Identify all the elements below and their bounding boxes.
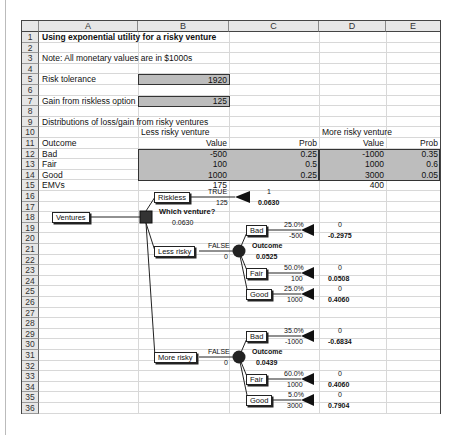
less-risky-chance-value: 0.0525 [256, 253, 277, 260]
decision-value: 0.0630 [172, 219, 193, 226]
branch-utility: -0.6834 [328, 338, 352, 345]
less-risky-branch-bad[interactable]: Bad [246, 225, 267, 236]
branch-utility: -0.2975 [328, 232, 352, 239]
more-risky-chance-value: 0.0439 [256, 359, 277, 366]
branch-value: -1000 [285, 338, 303, 345]
branch-prob: 0 [338, 285, 342, 292]
branch-utility: 0.4060 [328, 296, 349, 303]
less-risky-flag: FALSE [208, 242, 230, 249]
branch-utility: 0.4060 [328, 381, 349, 388]
riskless-prob: 1 [267, 188, 271, 195]
less-risky-chance-label: Outcome [252, 242, 282, 249]
more-risky-branch-good[interactable]: Good [246, 395, 272, 406]
more-risky-flag: FALSE [208, 348, 230, 355]
branch-riskless[interactable]: Riskless [154, 192, 190, 203]
branch-prob: 0 [338, 391, 342, 398]
branch-utility: 0.7904 [328, 402, 349, 409]
riskless-value: 125 [216, 199, 228, 206]
branch-value: 3000 [287, 402, 303, 409]
branch-pct: 5.0% [288, 391, 304, 398]
riskless-utility: 0.0630 [258, 199, 279, 206]
tree-root-ventures[interactable]: Ventures [52, 212, 90, 223]
more-risky-branch-fair[interactable]: Fair [246, 374, 267, 385]
branch-pct: 50.0% [284, 264, 304, 271]
branch-pct: 25.0% [284, 285, 304, 292]
less-risky-branch-fair[interactable]: Fair [246, 268, 267, 279]
branch-pct: 35.0% [284, 327, 304, 334]
more-risky-branch-bad[interactable]: Bad [246, 331, 267, 342]
branch-value: 1000 [287, 381, 303, 388]
branch-pct: 60.0% [284, 370, 304, 377]
branch-prob: 0 [338, 370, 342, 377]
branch-prob: 0 [338, 327, 342, 334]
branch-prob: 0 [338, 221, 342, 228]
less-risky-value: 0 [224, 253, 228, 260]
branch-value: 1000 [287, 296, 303, 303]
branch-pct: 25.0% [284, 221, 304, 228]
riskless-flag: TRUE [208, 188, 227, 195]
branch-value: 100 [291, 275, 303, 282]
branch-value: -500 [289, 232, 303, 239]
page-margin-line [5, 0, 6, 435]
branch-utility: 0.0508 [328, 275, 349, 282]
less-risky-branch-good[interactable]: Good [246, 289, 272, 300]
more-risky-chance-label: Outcome [252, 348, 282, 355]
decision-label: Which venture? [159, 207, 215, 216]
branch-less-risky[interactable]: Less risky [154, 246, 195, 257]
spreadsheet-grid[interactable]: A B C D E 123456789101112131415161718192… [21, 20, 441, 414]
more-risky-value: 0 [224, 359, 228, 366]
branch-prob: 0 [338, 264, 342, 271]
branch-more-risky[interactable]: More risky [154, 352, 197, 363]
